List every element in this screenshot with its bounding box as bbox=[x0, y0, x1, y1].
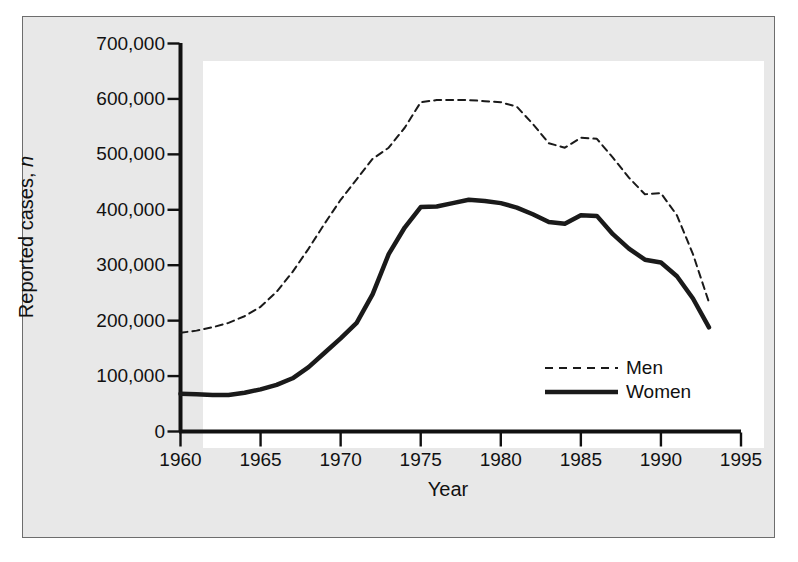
y-axis-tick-label: 0 bbox=[40, 421, 165, 443]
x-axis-tick-label: 1990 bbox=[640, 449, 682, 471]
y-axis-title: Reported cases, n bbox=[15, 156, 38, 318]
series-line-men bbox=[181, 100, 709, 333]
y-axis-tick-label: 300,000 bbox=[40, 254, 165, 276]
x-axis-tick-label: 1995 bbox=[720, 449, 762, 471]
y-axis-title-variable: n bbox=[15, 156, 37, 167]
x-axis-title: Year bbox=[428, 478, 468, 501]
series-paths bbox=[181, 100, 709, 395]
x-axis-tick-label: 1970 bbox=[320, 449, 362, 471]
y-axis-tick-label: 700,000 bbox=[40, 33, 165, 55]
x-axis-tick-label: 1960 bbox=[159, 449, 201, 471]
y-axis-tick-label: 500,000 bbox=[40, 143, 165, 165]
x-axis-tick-label: 1985 bbox=[560, 449, 602, 471]
chart-graphics bbox=[0, 0, 798, 562]
x-axis-tick-label: 1980 bbox=[480, 449, 522, 471]
y-axis-tick-label: 100,000 bbox=[40, 365, 165, 387]
x-axis-tick-label: 1965 bbox=[239, 449, 281, 471]
y-axis-title-text: Reported cases, bbox=[15, 167, 37, 318]
figure-root: 0100,000200,000300,000400,000500,000600,… bbox=[0, 0, 798, 562]
x-axis-tick-label: 1975 bbox=[400, 449, 442, 471]
y-axis-tick-label: 200,000 bbox=[40, 310, 165, 332]
legend-label-men: Men bbox=[626, 357, 663, 379]
y-axis-tick-label: 400,000 bbox=[40, 199, 165, 221]
y-axis-tick-label: 600,000 bbox=[40, 88, 165, 110]
legend-label-women: Women bbox=[626, 381, 691, 403]
legend-swatches bbox=[545, 368, 618, 392]
